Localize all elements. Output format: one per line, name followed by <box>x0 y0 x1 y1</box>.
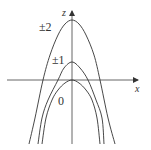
curve-pm1 <box>38 62 104 144</box>
curve-zero <box>42 80 100 144</box>
z-axis-label: z <box>62 8 66 18</box>
x-axis-label: x <box>135 84 139 94</box>
curve-label-pm2: ±2 <box>39 21 52 33</box>
diagram-canvas <box>0 0 151 150</box>
curve-label-pm1: ±1 <box>52 54 65 66</box>
curve-label-zero: 0 <box>58 95 64 107</box>
